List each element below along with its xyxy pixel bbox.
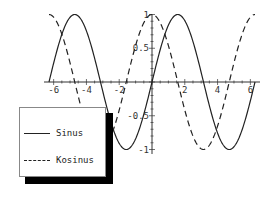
y-tick-label: -0.5 [127, 111, 149, 121]
legend-label: Sinus [56, 128, 83, 138]
y-tick-label: 0.5 [133, 43, 149, 53]
y-tick-label: -1 [138, 145, 149, 155]
x-tick-label: -6 [48, 85, 59, 95]
y-tick-label: 1 [144, 10, 149, 20]
x-tick-label: -4 [81, 85, 92, 95]
legend: Sinus Kosinus [19, 107, 106, 177]
legend-label: Kosinus [56, 155, 94, 165]
legend-item-kosinus: Kosinus [24, 155, 94, 165]
x-tick-label: 2 [182, 85, 187, 95]
x-tick-label: 4 [215, 85, 220, 95]
solid-line-icon [24, 133, 50, 134]
dashed-line-icon [24, 160, 50, 161]
legend-item-sinus: Sinus [24, 128, 83, 138]
